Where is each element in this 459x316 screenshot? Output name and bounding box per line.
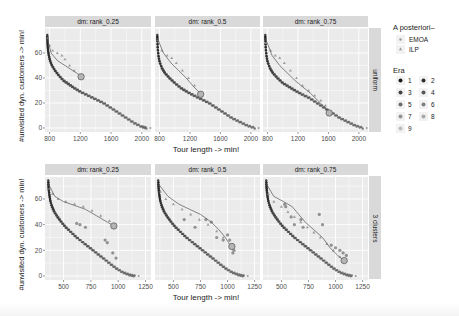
x-tick-label: 750: [303, 283, 314, 290]
x-tick-label: 500: [58, 283, 69, 290]
facet-strip-label: dm: rank_0.25: [77, 166, 119, 174]
legend-item-label: 9: [408, 125, 412, 132]
facet-strip-label: dm: rank_0.5: [189, 166, 227, 174]
panel-background: [45, 177, 151, 280]
row-strip-label: 3 clusters: [372, 215, 379, 244]
y-tick-label: 0: [38, 272, 42, 279]
facet-panel: dm: rank_0.5800120016002000: [154, 16, 260, 142]
x-tick-label: 800: [44, 135, 55, 142]
legend: A posteriori–EMOAILPEra123456789: [393, 23, 436, 133]
x-tick-label: 2000: [352, 135, 367, 142]
x-tick-label: 1000: [220, 283, 235, 290]
x-tick-label: 1200: [183, 135, 198, 142]
panel-background: [155, 177, 260, 280]
x-tick-label: 750: [195, 283, 206, 290]
x-tick-label: 1600: [104, 135, 119, 142]
legend-item-label: 5: [408, 101, 412, 108]
x-tick-label: 2000: [135, 135, 150, 142]
selected-solution-marker: [326, 110, 332, 116]
era-swatch-icon: [422, 91, 426, 95]
x-tick-label: 1000: [328, 283, 343, 290]
era-swatch-icon: [422, 103, 426, 107]
x-tick-label: 1250: [138, 283, 153, 290]
facet-panel: dm: rank_0.258001200160020000204060: [35, 16, 152, 142]
x-axis-title: Tour length -> min!: [173, 145, 239, 154]
selected-solution-marker: [111, 223, 117, 229]
selected-solution-marker: [341, 257, 347, 263]
legend-title-era: Era: [393, 66, 406, 75]
panel-background: [45, 28, 151, 132]
era-swatch-icon: [399, 115, 403, 119]
x-tick-label: 2000: [244, 135, 259, 142]
facet-strip-label: dm: rank_0.75: [295, 18, 337, 26]
facet-row-0: dm: rank_0.258001200160020000204060dm: r…: [35, 16, 381, 142]
y-tick-label: 40: [35, 74, 43, 81]
facet-row-1: dm: rank_0.25500750100012500204060dm: ra…: [35, 164, 381, 290]
legend-item-label: 7: [408, 113, 412, 120]
x-tick-label: 500: [168, 283, 179, 290]
y-tick-label: 20: [35, 247, 43, 254]
x-axis-title: Tour length -> min!: [173, 293, 239, 302]
facet-strip-label: dm: rank_0.25: [77, 18, 119, 26]
legend-item-label: 3: [408, 89, 412, 96]
selected-solution-marker: [78, 74, 84, 80]
x-tick-label: 1200: [291, 135, 306, 142]
x-tick-label: 1000: [111, 283, 126, 290]
x-tick-label: 500: [276, 283, 287, 290]
facet-panel: dm: rank_0.7550075010001250: [263, 164, 370, 290]
x-tick-label: 1600: [213, 135, 228, 142]
era-swatch-icon: [399, 91, 403, 95]
emoa-legend-icon: [399, 38, 401, 40]
faceted-scatter-chart: dm: rank_0.258001200160020000204060dm: r…: [0, 0, 459, 316]
row-strip-label: uniform: [372, 69, 379, 91]
x-tick-label: 1250: [247, 283, 262, 290]
facet-panel: dm: rank_0.75800120016002000: [262, 16, 368, 142]
y-tick-label: 0: [38, 124, 42, 131]
x-tick-label: 800: [262, 135, 273, 142]
facet-strip-label: dm: rank_0.5: [189, 18, 227, 26]
legend-item-label: 4: [431, 89, 435, 96]
panel-background: [263, 177, 368, 280]
y-tick-label: 60: [35, 195, 43, 202]
era-swatch-icon: [422, 79, 426, 83]
legend-item-label: EMOA: [409, 36, 429, 43]
y-tick-label: 60: [35, 49, 43, 56]
facet-panel: dm: rank_0.25500750100012500204060: [35, 164, 153, 290]
era-swatch-icon: [422, 115, 426, 119]
y-axis-title: #unvisited dyn. customers -> min!: [17, 179, 26, 291]
era-swatch-icon: [399, 127, 403, 131]
era-swatch-icon: [399, 103, 403, 107]
x-tick-label: 1600: [321, 135, 336, 142]
legend-item-label: 1: [408, 77, 412, 84]
legend-item-label: 6: [431, 101, 435, 108]
selected-solution-marker: [197, 91, 203, 97]
y-axis-title: #unvisited dyn. customers -> min!: [17, 30, 26, 142]
x-tick-label: 1200: [73, 135, 88, 142]
legend-item-label: 8: [431, 113, 435, 120]
selected-solution-marker: [229, 243, 235, 249]
legend-title-algorithm: A posteriori–: [393, 23, 436, 32]
legend-item-label: ILP: [409, 46, 419, 53]
x-tick-label: 800: [154, 135, 165, 142]
era-swatch-icon: [399, 79, 403, 83]
legend-item-label: 2: [431, 77, 435, 84]
y-tick-label: 20: [35, 99, 43, 106]
x-tick-label: 1250: [355, 283, 370, 290]
facet-panel: dm: rank_0.550075010001250: [155, 164, 262, 290]
x-tick-label: 750: [85, 283, 96, 290]
facet-strip-label: dm: rank_0.75: [295, 166, 337, 174]
y-tick-label: 40: [35, 221, 43, 228]
